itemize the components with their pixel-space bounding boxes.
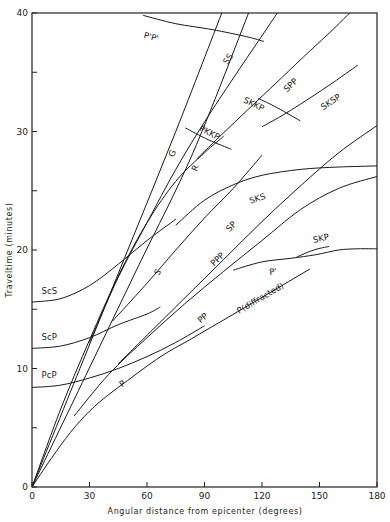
x-tick-label: 30 bbox=[84, 491, 96, 501]
label-sks: SKS bbox=[248, 191, 267, 206]
label-pp: PP bbox=[196, 311, 210, 325]
curves bbox=[32, 5, 377, 487]
label-sp: SP bbox=[224, 219, 239, 234]
y-axis-label: Traveltime (minutes) bbox=[5, 202, 14, 298]
plot-frame bbox=[32, 13, 377, 487]
y-tick-label: 40 bbox=[17, 8, 29, 18]
label-sksp: SKSP bbox=[319, 92, 342, 112]
curve-r bbox=[32, 13, 249, 487]
x-tick-label: 0 bbox=[29, 491, 35, 501]
label-ppp: PPP bbox=[208, 250, 226, 268]
y-tick-label: 20 bbox=[17, 245, 29, 255]
label-skp: SKP bbox=[312, 231, 330, 244]
curve-pcp bbox=[32, 326, 205, 388]
y-tick-label: 0 bbox=[22, 482, 28, 492]
axes: 0306090120150180010203040 bbox=[17, 8, 386, 501]
x-tick-label: 90 bbox=[199, 491, 211, 501]
label-g: G bbox=[166, 148, 178, 158]
label-p-diffracted: P(diffracted) bbox=[235, 280, 286, 315]
x-tick-label: 120 bbox=[253, 491, 270, 501]
label-p-p: P'P' bbox=[143, 30, 160, 43]
label-r: R bbox=[189, 163, 201, 172]
label-p: P' bbox=[269, 266, 278, 277]
y-tick-label: 30 bbox=[17, 127, 29, 137]
y-tick-label: 10 bbox=[17, 364, 29, 374]
traveltime-chart: 0306090120150180010203040 PP(diffracted)… bbox=[0, 0, 390, 522]
x-tick-label: 60 bbox=[141, 491, 153, 501]
curve-g bbox=[32, 13, 222, 487]
x-axis-label: Angular distance from epicenter (degrees… bbox=[108, 507, 303, 516]
label-spp: SPP bbox=[281, 76, 299, 94]
label-pkkp: PKKP bbox=[198, 123, 222, 142]
label-scs: ScS bbox=[42, 286, 57, 296]
label-scp: ScP bbox=[42, 332, 57, 342]
curve-labels: PP(diffracted)PcPScPScSPPPPPSSPSKSSKPP'S… bbox=[42, 30, 343, 389]
curve-p bbox=[32, 340, 189, 487]
x-tick-label: 150 bbox=[311, 491, 328, 501]
curve-sksp bbox=[262, 65, 358, 127]
label-skkp: SKKP bbox=[242, 95, 266, 114]
curve-sp bbox=[113, 155, 263, 321]
curve-s bbox=[32, 136, 224, 487]
curve-p bbox=[233, 249, 377, 270]
curve-ss bbox=[90, 13, 278, 342]
x-tick-label: 180 bbox=[368, 491, 385, 501]
label-pcp: PcP bbox=[42, 370, 57, 380]
